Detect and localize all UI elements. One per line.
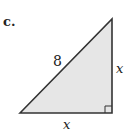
horizontal-leg-label: x (63, 118, 70, 131)
triangle-shape (20, 19, 112, 113)
vertical-leg-label: x (116, 62, 123, 75)
right-triangle-figure: c. 8 x x (0, 0, 129, 138)
hypotenuse-label: 8 (53, 54, 62, 68)
part-label: c. (3, 15, 15, 28)
